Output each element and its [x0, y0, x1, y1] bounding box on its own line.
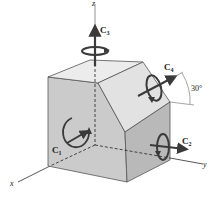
y-axis-label: y	[202, 160, 207, 169]
angle-arc	[182, 73, 190, 104]
c2-label: C2	[182, 136, 192, 147]
angle-label: 30°	[191, 84, 202, 93]
angle-dir-line	[174, 72, 183, 77]
x-axis	[18, 166, 50, 182]
angle-ref-line	[170, 102, 194, 105]
y-axis	[170, 158, 203, 164]
block-diagram: z x y C3 C4 C1 C2 30°	[0, 0, 216, 197]
c4-label: C4	[164, 62, 174, 73]
x-axis-label: x	[9, 179, 14, 188]
c3-label: C3	[100, 25, 110, 36]
